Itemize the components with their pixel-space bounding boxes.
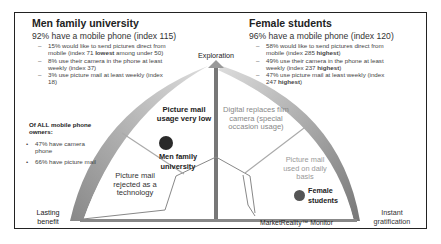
- right-bullet: 58% would like to send pictures direct f…: [256, 42, 396, 57]
- marker-men-family-university: [159, 136, 173, 150]
- all-owners-box: Of ALL mobile phone owners: 47% have cam…: [26, 121, 96, 168]
- right-panel-headline: 96% have a mobile phone (index 120): [249, 31, 394, 41]
- marker-label-men: Men family university: [152, 152, 204, 172]
- segment-label-digital-replaces: Digital replaces film camera (special oc…: [220, 106, 292, 132]
- axis-label-exploration: Exploration: [188, 52, 244, 61]
- segment-label-daily: Picture mail used on daily basis: [278, 156, 332, 182]
- segment-label-rejected: Picture mail rejected as a technology: [107, 172, 163, 198]
- left-panel-bullets: 15% would like to send pictures direct f…: [38, 42, 170, 86]
- axis-arrow-top: [208, 60, 224, 68]
- right-panel-title: Female students: [249, 17, 332, 29]
- right-panel-bullets: 58% would like to send pictures direct f…: [256, 42, 396, 86]
- segment-label-usage-low: Picture mail usage very low: [153, 106, 215, 123]
- axis-label-instant-gratification: Instant gratification: [369, 209, 415, 226]
- left-bullet: 15% would like to send pictures direct f…: [38, 42, 170, 57]
- right-bullet: 47% use picture mail at least weekly (in…: [256, 71, 396, 86]
- footer-source-label: MarketReality™ Monitor: [260, 219, 333, 226]
- left-bullet: 3% use picture mail at least weekly (ind…: [38, 71, 170, 86]
- right-bullet: 49% use their camera in the phone at lea…: [256, 57, 396, 72]
- all-owners-item: 66% have picture mail: [26, 158, 96, 165]
- all-owners-item: 47% have camera phone: [26, 140, 96, 155]
- all-owners-title: Of ALL mobile phone owners:: [26, 121, 96, 136]
- marker-label-female: Female students: [308, 186, 342, 206]
- marker-female-students: [294, 190, 305, 201]
- vertical-axis: [214, 64, 218, 221]
- left-panel-title: Men family university: [32, 17, 139, 29]
- axis-label-lasting-benefit: Lasting benefit: [28, 209, 68, 226]
- left-bullet: 8% use their camera in the phone at leas…: [38, 57, 170, 72]
- left-panel-headline: 92% have a mobile phone (index 115): [32, 31, 176, 41]
